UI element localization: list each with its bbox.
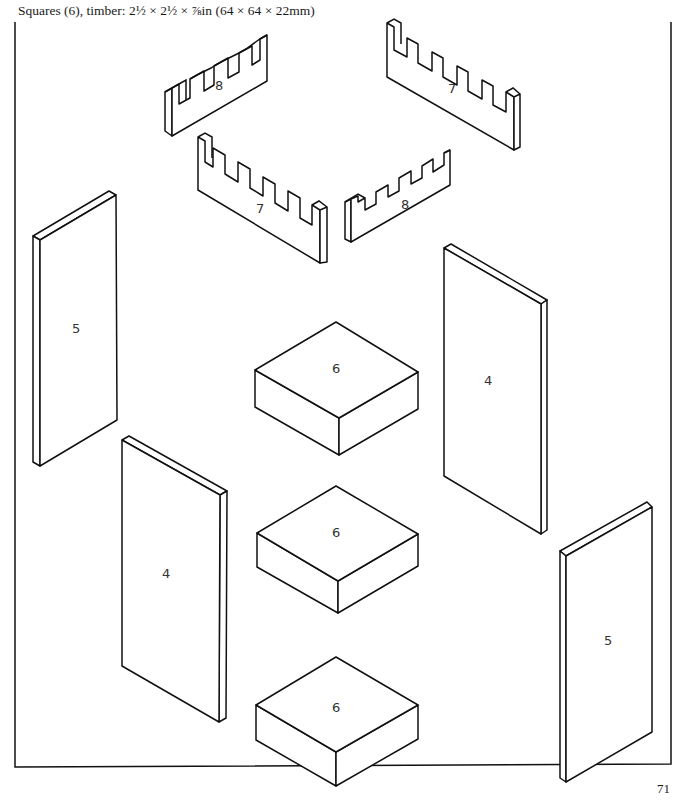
part-label: 5: [604, 633, 612, 648]
square-block-3: 6: [256, 657, 418, 786]
square-block-2: 6: [257, 486, 418, 613]
panel-4-right: 4: [444, 244, 547, 534]
panel-5-right: 5: [560, 502, 652, 782]
notched-rail-7-mid: 7: [198, 133, 327, 263]
page-number: 71: [657, 781, 670, 797]
panel-4-left: 4: [122, 436, 227, 722]
part-label: 4: [162, 566, 170, 581]
notched-rail-7-top: 7: [387, 19, 520, 150]
part-label: 7: [256, 201, 264, 216]
part-label: 7: [448, 81, 456, 96]
square-block-1: 6: [255, 322, 418, 455]
exploded-assembly-drawing: 5 4 4 5 6 6 6: [0, 0, 690, 800]
part-label: 8: [401, 197, 409, 212]
notched-rail-8-top: 8: [165, 35, 267, 136]
part-label: 6: [332, 525, 340, 540]
panel-5-left: 5: [33, 191, 117, 466]
part-label: 4: [484, 373, 492, 388]
notched-rail-8-mid: 8: [345, 150, 450, 242]
part-label: 6: [332, 700, 340, 715]
part-label: 6: [332, 361, 340, 376]
part-label: 8: [215, 78, 223, 93]
part-label: 5: [72, 321, 80, 336]
